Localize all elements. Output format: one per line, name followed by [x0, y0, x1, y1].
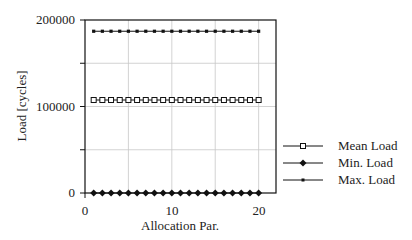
open-square-marker-icon	[109, 98, 114, 103]
filled-diamond-marker-icon	[177, 190, 184, 197]
small-filled-square-marker-icon	[101, 30, 104, 33]
small-filled-square-marker-icon	[214, 30, 217, 33]
small-filled-square-marker-icon	[135, 30, 138, 33]
filled-diamond-marker-icon	[160, 190, 167, 197]
data-series	[90, 30, 262, 197]
y-tick-label: 200000	[36, 12, 75, 27]
filled-diamond-marker-icon	[194, 190, 201, 197]
filled-diamond-marker-icon	[255, 190, 262, 197]
series-mean-load	[91, 98, 261, 103]
chart: 200000 100000 0 0 10 20 Allocation Par. …	[0, 0, 412, 240]
open-square-marker-icon	[204, 98, 209, 103]
open-square-marker-icon	[247, 98, 252, 103]
legend-item-max: Max. Load	[283, 172, 396, 187]
y-axis-label: Load [cycles]	[14, 70, 29, 141]
open-square-marker-icon	[152, 98, 157, 103]
small-filled-square-marker-icon	[170, 30, 173, 33]
filled-diamond-marker-icon	[134, 190, 141, 197]
series-max-load	[92, 30, 260, 33]
open-square-marker-icon	[126, 98, 131, 103]
open-square-marker-icon	[187, 98, 192, 103]
filled-diamond-marker-icon	[220, 190, 227, 197]
filled-diamond-marker-icon	[116, 190, 123, 197]
open-square-marker-icon	[213, 98, 218, 103]
filled-diamond-marker-icon	[125, 190, 132, 197]
small-filled-square-marker-icon	[257, 30, 260, 33]
legend-item-min: Min. Load	[283, 155, 393, 170]
small-filled-square-marker-icon	[127, 30, 130, 33]
small-filled-square-marker-icon	[231, 30, 234, 33]
open-square-marker-icon	[91, 98, 96, 103]
open-square-marker-icon	[221, 98, 226, 103]
filled-diamond-marker-icon	[168, 190, 175, 197]
filled-diamond-marker-icon	[108, 190, 115, 197]
filled-diamond-marker-icon	[238, 190, 245, 197]
small-filled-square-marker-icon	[144, 30, 147, 33]
small-filled-square-marker-icon	[109, 30, 112, 33]
open-square-marker-icon	[195, 98, 200, 103]
small-filled-square-marker-icon	[92, 30, 95, 33]
filled-diamond-marker-icon	[151, 190, 158, 197]
legend-label: Min. Load	[338, 155, 393, 170]
open-square-marker-icon	[178, 98, 183, 103]
small-filled-square-marker-icon	[118, 30, 121, 33]
small-filled-square-marker-icon	[179, 30, 182, 33]
x-tick-label: 0	[82, 203, 89, 218]
small-filled-square-marker-icon	[196, 30, 199, 33]
open-square-marker-icon	[161, 98, 166, 103]
open-square-marker-icon	[301, 144, 306, 149]
small-filled-square-marker-icon	[222, 30, 225, 33]
open-square-marker-icon	[256, 98, 261, 103]
open-square-marker-icon	[239, 98, 244, 103]
y-tick-labels: 200000 100000 0	[36, 12, 75, 200]
small-filled-square-marker-icon	[248, 30, 251, 33]
small-filled-square-marker-icon	[302, 179, 305, 182]
small-filled-square-marker-icon	[240, 30, 243, 33]
legend-item-mean: Mean Load	[283, 138, 398, 153]
filled-diamond-marker-icon	[203, 190, 210, 197]
small-filled-square-marker-icon	[153, 30, 156, 33]
legend-label: Max. Load	[338, 172, 396, 187]
y-tick-label: 100000	[36, 99, 75, 114]
axis-ticks	[80, 20, 85, 198]
y-tick-label: 0	[69, 185, 76, 200]
filled-diamond-marker-icon	[142, 190, 149, 197]
open-square-marker-icon	[143, 98, 148, 103]
series-min-load	[90, 190, 262, 197]
open-square-marker-icon	[230, 98, 235, 103]
filled-diamond-marker-icon	[229, 190, 236, 197]
small-filled-square-marker-icon	[205, 30, 208, 33]
filled-diamond-marker-icon	[186, 190, 193, 197]
x-tick-label: 10	[166, 203, 179, 218]
open-square-marker-icon	[100, 98, 105, 103]
x-axis-label: Allocation Par.	[141, 218, 219, 233]
filled-diamond-marker-icon	[246, 190, 253, 197]
filled-diamond-marker-icon	[90, 190, 97, 197]
small-filled-square-marker-icon	[188, 30, 191, 33]
open-square-marker-icon	[169, 98, 174, 103]
open-square-marker-icon	[135, 98, 140, 103]
legend-label: Mean Load	[338, 138, 398, 153]
legend: Mean Load Min. Load Max. Load	[283, 138, 398, 187]
filled-diamond-marker-icon	[212, 190, 219, 197]
x-tick-labels: 0 10 20	[82, 203, 266, 218]
gridlines	[85, 20, 276, 193]
filled-diamond-marker-icon	[300, 160, 307, 167]
small-filled-square-marker-icon	[162, 30, 165, 33]
filled-diamond-marker-icon	[99, 190, 106, 197]
x-tick-label: 20	[253, 203, 266, 218]
open-square-marker-icon	[117, 98, 122, 103]
